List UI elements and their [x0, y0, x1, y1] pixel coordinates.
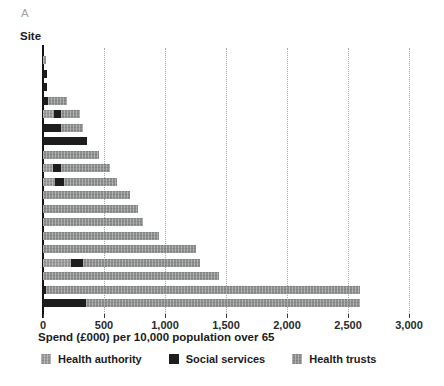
- bar-site-4: [43, 97, 67, 105]
- bar-segment-social-services: [43, 137, 87, 145]
- gridline: [348, 48, 349, 314]
- x-axis-tick-label: 3,000: [395, 319, 423, 331]
- bar-site-14: [43, 232, 159, 240]
- bar-segment-health-authority: [43, 56, 46, 64]
- bar-segment-health-trusts: [48, 97, 67, 105]
- legend-item-health-trusts: Health trusts: [292, 353, 376, 365]
- gridline: [409, 48, 410, 314]
- x-axis-tick: [165, 314, 166, 318]
- bar-segment-health-trusts: [61, 110, 79, 118]
- bar-segment-health-trusts: [43, 245, 196, 253]
- bar-segment-health-trusts: [43, 205, 138, 213]
- bar-segment-health-trusts: [61, 164, 110, 172]
- x-axis-tick: [409, 314, 410, 318]
- gridline: [226, 48, 227, 314]
- bar-site-15: [43, 245, 196, 253]
- health-trusts-swatch-icon: [292, 354, 302, 364]
- x-axis-tick: [287, 314, 288, 318]
- bar-site-2: [43, 70, 47, 78]
- legend-label-health-authority: Health authority: [58, 353, 142, 365]
- gridline: [287, 48, 288, 314]
- legend-label-social-services: Social services: [186, 353, 266, 365]
- bar-segment-social-services: [43, 124, 61, 132]
- x-axis-title: Spend (£000) per 10,000 population over …: [38, 331, 274, 343]
- x-axis-tick-label: 2,000: [273, 319, 301, 331]
- bar-site-7: [43, 137, 87, 145]
- x-axis-tick-label: 1,000: [151, 319, 179, 331]
- bar-segment-health-trusts: [46, 286, 360, 294]
- bar-segment-social-services: [54, 110, 61, 118]
- legend-item-health-authority: Health authority: [41, 353, 142, 365]
- bar-site-3: [43, 83, 47, 91]
- bar-segment-health-trusts: [83, 259, 200, 267]
- y-axis-title: Site: [20, 30, 41, 42]
- plot-area: [43, 45, 409, 314]
- bar-segment-health-trusts: [43, 151, 99, 159]
- bar-site-5: [43, 110, 80, 118]
- bar-segment-health-authority: [43, 164, 53, 172]
- bar-segment-health-trusts: [43, 272, 219, 280]
- bar-segment-health-trusts: [43, 232, 159, 240]
- bar-segment-health-trusts: [86, 299, 360, 307]
- x-axis-tick: [104, 314, 105, 318]
- legend-label-health-trusts: Health trusts: [309, 353, 376, 365]
- legend: Health authority Social services Health …: [41, 353, 404, 365]
- social-services-swatch-icon: [169, 354, 179, 364]
- bar-site-19: [43, 299, 360, 307]
- x-axis-tick: [348, 314, 349, 318]
- bar-site-8: [43, 151, 99, 159]
- bar-segment-health-authority: [43, 259, 71, 267]
- bar-segment-social-services: [55, 178, 64, 186]
- bar-site-10: [43, 178, 117, 186]
- bar-site-12: [43, 205, 138, 213]
- bar-site-18: [43, 286, 360, 294]
- x-axis-tick-label: 0: [40, 319, 46, 331]
- bar-site-16: [43, 259, 200, 267]
- bar-segment-social-services: [43, 70, 47, 78]
- bar-segment-health-trusts: [64, 178, 118, 186]
- bar-segment-health-authority: [43, 110, 54, 118]
- bar-site-13: [43, 218, 143, 226]
- health-authority-swatch-icon: [41, 354, 51, 364]
- bar-segment-social-services: [43, 299, 86, 307]
- bar-segment-health-trusts: [43, 191, 130, 199]
- bar-site-9: [43, 164, 110, 172]
- bar-segment-social-services: [71, 259, 83, 267]
- bar-segment-health-authority: [43, 178, 55, 186]
- legend-item-social-services: Social services: [169, 353, 266, 365]
- bar-segment-social-services: [43, 83, 47, 91]
- x-axis-tick-label: 1,500: [212, 319, 240, 331]
- x-axis-tick-label: 2,500: [334, 319, 362, 331]
- bar-site-11: [43, 191, 130, 199]
- x-axis-tick: [226, 314, 227, 318]
- x-axis-tick-label: 500: [95, 319, 113, 331]
- bar-site-6: [43, 124, 83, 132]
- chart-figure: A Site 05001,0001,5002,0002,5003,000 Spe…: [0, 0, 444, 386]
- bar-segment-social-services: [53, 164, 62, 172]
- bar-segment-health-trusts: [43, 218, 143, 226]
- bar-segment-health-trusts: [61, 124, 83, 132]
- bar-site-1: [43, 56, 46, 64]
- x-axis-tick: [43, 314, 44, 318]
- panel-label: A: [21, 7, 29, 19]
- bar-site-17: [43, 272, 219, 280]
